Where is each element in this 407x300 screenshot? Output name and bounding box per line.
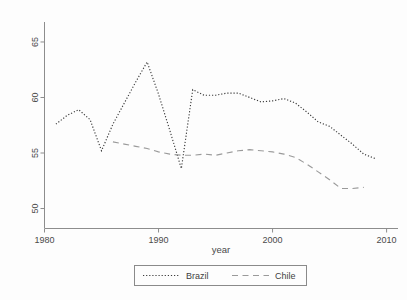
chart-legend: Brazil Chile (135, 266, 307, 286)
y-tick-label: 60 (30, 92, 40, 102)
y-axis-ticks: 50556065 (30, 37, 45, 214)
x-tick-label: 1990 (149, 235, 169, 245)
chart-figure: 50556065 1980199020002010 year Brazil Ch… (0, 0, 407, 300)
y-tick-label: 65 (30, 37, 40, 47)
series-line-chile (113, 142, 364, 189)
x-tick-label: 1980 (34, 235, 54, 245)
x-tick-label: 2000 (263, 235, 283, 245)
line-chart: 50556065 1980199020002010 year Brazil Ch… (0, 0, 407, 300)
y-tick-label: 55 (30, 148, 40, 158)
legend-label-chile: Chile (275, 271, 296, 281)
x-tick-label: 2010 (377, 235, 397, 245)
x-axis-ticks: 1980199020002010 (34, 229, 396, 245)
legend-label-brazil: Brazil (186, 271, 209, 281)
y-tick-label: 50 (30, 204, 40, 214)
series-group (56, 62, 375, 189)
x-axis-title: year (212, 244, 230, 255)
series-line-brazil (56, 62, 375, 169)
